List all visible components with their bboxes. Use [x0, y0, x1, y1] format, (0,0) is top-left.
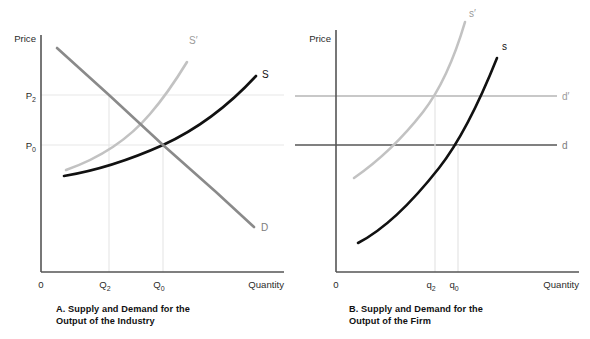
panel-a-caption-line2: Output of the Industry [56, 315, 286, 327]
curve-label-firm-demand-shifted: d′ [562, 91, 570, 102]
x-tick-origin: 0 [333, 279, 338, 290]
panel-a-plot: S′ S D Price Quantity P2 P0 0 Q2 Q0 [0, 0, 295, 295]
y-tick-p2-sub: 2 [32, 96, 36, 103]
x-axis-title: Quantity [248, 279, 284, 290]
curve-label-demand: D [261, 222, 268, 233]
curve-label-firm-supply-shifted: s′ [469, 8, 476, 19]
panel-b-firm: s′ s d′ d Price Quantity 0 q2 q0 B. Supp… [295, 0, 590, 339]
curve-label-supply-shifted: S′ [189, 35, 198, 46]
panel-a-industry: S′ S D Price Quantity P2 P0 0 Q2 Q0 A. S… [0, 0, 295, 339]
panel-b-caption-line2: Output of the Firm [349, 315, 579, 327]
curve-demand [57, 48, 254, 227]
curve-supply [64, 76, 256, 176]
panel-a-caption-line1: A. Supply and Demand for the [56, 303, 286, 315]
x-tick-q0-sub: 0 [161, 285, 165, 292]
y-axis-title: Price [309, 33, 331, 44]
curve-label-firm-supply: s [502, 41, 507, 52]
panel-a-caption: A. Supply and Demand for the Output of t… [56, 303, 286, 328]
curve-label-firm-demand: d [562, 140, 568, 151]
x-tick-origin: 0 [38, 279, 43, 290]
x-tick-q2: Q2 [99, 279, 110, 292]
x-tick-q0: q0 [449, 279, 458, 292]
x-tick-q0: Q0 [153, 279, 164, 292]
x-tick-q2-sub: 2 [432, 285, 436, 292]
x-tick-q2: q2 [426, 279, 435, 292]
panel-b-caption-line1: B. Supply and Demand for the [349, 303, 579, 315]
x-tick-q0-base: Q [153, 279, 160, 290]
y-tick-p0-sub: 0 [32, 146, 36, 153]
curve-label-supply: S [262, 69, 269, 80]
y-axis-title: Price [14, 33, 36, 44]
panel-b-plot: s′ s d′ d Price Quantity 0 q2 q0 [295, 0, 590, 295]
panel-b-caption: B. Supply and Demand for the Output of t… [349, 303, 579, 328]
y-tick-p2: P2 [26, 90, 36, 103]
x-tick-q0-sub: 0 [455, 285, 459, 292]
curve-supply-shifted [66, 62, 187, 170]
supply-demand-figure: S′ S D Price Quantity P2 P0 0 Q2 Q0 A. S… [0, 0, 590, 339]
y-tick-p0: P0 [26, 140, 36, 153]
x-tick-q2-base: Q [99, 279, 106, 290]
curve-firm-supply [358, 58, 497, 243]
x-tick-q2-sub: 2 [107, 285, 111, 292]
x-axis-title: Quantity [543, 279, 579, 290]
